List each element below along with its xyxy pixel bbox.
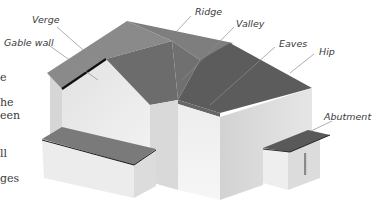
leader-ridge bbox=[176, 16, 191, 32]
label-verge: Verge bbox=[32, 15, 60, 25]
house-illustration bbox=[0, 0, 379, 208]
text-fragment: he bbox=[0, 97, 14, 108]
text-fragment: ges bbox=[0, 173, 19, 184]
label-hip: Hip bbox=[319, 47, 335, 57]
label-gable-wall: Gable wall bbox=[4, 38, 54, 48]
roof-diagram: Verge Gable wall Ridge Valley Eaves Hip … bbox=[0, 0, 379, 208]
leader-hip bbox=[290, 54, 314, 73]
label-abutment: Abutment bbox=[324, 112, 371, 122]
label-eaves: Eaves bbox=[279, 39, 307, 49]
downpipe bbox=[304, 153, 306, 175]
text-fragment: een bbox=[0, 110, 20, 121]
text-fragment: ll bbox=[0, 148, 7, 159]
front-wall bbox=[178, 104, 220, 200]
label-valley: Valley bbox=[236, 19, 264, 29]
leader-abutment bbox=[311, 121, 332, 131]
text-fragment: e bbox=[0, 72, 7, 83]
lean-to-front-wall bbox=[263, 150, 288, 190]
label-ridge: Ridge bbox=[195, 7, 222, 17]
